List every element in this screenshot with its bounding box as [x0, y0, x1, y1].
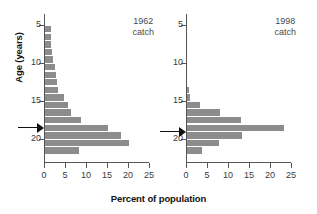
x-tick-mark-15 [107, 163, 108, 168]
bar-age-11 [45, 87, 58, 93]
x-tick-mark-0 [44, 163, 45, 168]
bar-age-6 [45, 125, 108, 131]
bar-age-5 [45, 132, 121, 138]
arrow-shaft [160, 131, 180, 133]
panel-label-1998: 1998 catch [274, 16, 296, 38]
bar-age-14 [45, 64, 55, 70]
y-tick-label-15: 10 [31, 57, 41, 67]
bar-age-10 [187, 94, 190, 100]
arrow-shaft [18, 127, 38, 129]
x-tick-mark-0 [186, 163, 187, 168]
y-tick-label-20: 5 [36, 19, 41, 29]
bar-age-7 [45, 117, 81, 123]
x-tick-mark-20 [270, 163, 271, 168]
x-tick-label-10: 10 [81, 170, 91, 180]
y-tick-label-20: 5 [178, 19, 183, 29]
x-axis-line-1998 [186, 162, 291, 163]
bar-age-8 [187, 109, 220, 115]
bar-age-3 [187, 147, 202, 153]
age-marker-arrow [18, 123, 44, 133]
x-tick-label-10: 10 [223, 170, 233, 180]
arrow-head [37, 123, 44, 133]
panel-1962: 2015105 0510152025 1962 catch [44, 14, 156, 168]
y-tick-label-5: 20 [31, 133, 41, 143]
panel-year-1962: 1962 [132, 16, 154, 27]
x-tick-label-15: 15 [244, 170, 254, 180]
bar-age-9 [187, 102, 200, 108]
x-tick-mark-10 [86, 163, 87, 168]
bar-age-4 [187, 140, 219, 146]
bar-age-5 [187, 132, 242, 138]
y-tick-label-15: 10 [173, 57, 183, 67]
bar-age-19 [45, 26, 51, 32]
bar-age-18 [45, 34, 51, 40]
bar-age-16 [45, 49, 52, 55]
figure: Age (years) 2015105 0510152025 1962 catc… [0, 0, 317, 214]
x-tick-mark-20 [128, 163, 129, 168]
bar-age-9 [45, 102, 68, 108]
x-tick-mark-15 [249, 163, 250, 168]
bar-age-13 [45, 72, 56, 78]
panel-1998: 2015105 0510152025 1998 catch [186, 14, 298, 168]
x-tick-label-15: 15 [102, 170, 112, 180]
y-tick-label-5: 20 [173, 133, 183, 143]
x-tick-mark-25 [291, 163, 292, 168]
x-tick-label-0: 0 [183, 170, 188, 180]
panel-catch-1998: catch [274, 27, 296, 38]
panel-year-1998: 1998 [274, 16, 296, 27]
x-tick-label-5: 5 [204, 170, 209, 180]
bar-age-8 [45, 109, 71, 115]
bar-age-4 [45, 140, 129, 146]
bar-age-15 [45, 56, 53, 62]
x-tick-label-0: 0 [41, 170, 46, 180]
x-tick-label-25: 25 [144, 170, 154, 180]
bar-age-12 [45, 79, 57, 85]
bar-age-7 [187, 117, 241, 123]
y-tick-label-10: 15 [31, 95, 41, 105]
x-tick-mark-10 [228, 163, 229, 168]
x-tick-label-25: 25 [286, 170, 296, 180]
x-tick-mark-5 [207, 163, 208, 168]
x-tick-mark-5 [65, 163, 66, 168]
panel-catch-1962: catch [132, 27, 154, 38]
bar-age-11 [187, 87, 189, 93]
x-tick-label-5: 5 [62, 170, 67, 180]
panel-label-1962: 1962 catch [132, 16, 154, 38]
x-axis-line-1962 [44, 162, 149, 163]
y-axis-title: Age (years) [13, 10, 24, 106]
bar-age-10 [45, 94, 64, 100]
x-tick-label-20: 20 [123, 170, 133, 180]
y-tick-label-10: 15 [173, 95, 183, 105]
x-tick-label-20: 20 [265, 170, 275, 180]
x-axis-title: Percent of population [0, 193, 317, 204]
bar-age-3 [45, 147, 79, 153]
bar-age-17 [45, 41, 51, 47]
bar-age-6 [187, 125, 284, 131]
x-tick-mark-25 [149, 163, 150, 168]
